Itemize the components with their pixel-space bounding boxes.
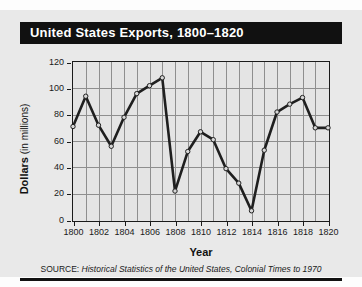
series-marker [109,144,113,148]
x-tick-mark [201,222,202,226]
series-marker [224,166,228,170]
series-marker [313,126,317,130]
series-marker [71,124,75,128]
source-prefix: SOURCE: [40,264,79,274]
series-marker [275,110,279,114]
x-tick-mark [125,222,126,226]
series-marker [262,148,266,152]
series-marker [160,76,164,80]
y-tick-label: 80 [34,109,64,119]
y-tick-mark [67,221,71,222]
y-tick-label: 40 [34,162,64,172]
y-axis-title-bold: Dollars [18,157,30,194]
title-banner: United States Exports, 1800–1820 [20,22,342,44]
y-tick-label: 60 [34,136,64,146]
y-tick-mark [67,89,71,90]
exports-line-series [73,62,328,220]
x-axis-title: Year [72,246,330,258]
series-marker [326,126,330,130]
x-tick-mark [176,222,177,226]
x-tick-mark [99,222,100,226]
x-tick-mark [252,222,253,226]
chart-title: United States Exports, 1800–1820 [30,25,244,40]
series-marker [122,115,126,119]
x-tick-mark [329,222,330,226]
series-marker [237,181,241,185]
y-axis-title: Dollars (in millions) [16,96,32,206]
x-tick-mark [74,222,75,226]
y-tick-mark [67,63,71,64]
y-tick-mark [67,194,71,195]
bottom-rule [20,278,342,281]
y-tick-label: 100 [34,83,64,93]
series-marker [211,137,215,141]
series-marker [186,149,190,153]
series-marker [173,189,177,193]
y-tick-label: 0 [34,215,64,225]
x-tick-label: 1820 [312,227,346,237]
y-axis-title-rest: (in millions) [19,104,30,157]
plot-area [72,61,330,222]
series-marker [147,84,151,88]
y-tick-label: 20 [34,188,64,198]
source-note: SOURCE: Historical Statistics of the Uni… [20,264,342,274]
series-marker [300,95,304,99]
y-tick-mark [67,115,71,116]
series-marker [198,130,202,134]
page-top-margin [0,0,362,10]
x-tick-mark [227,222,228,226]
series-marker [249,209,253,213]
y-tick-mark [67,142,71,143]
source-text: Historical Statistics of the United Stat… [79,264,321,274]
series-marker [96,123,100,127]
figure-container: United States Exports, 1800–1820 Dollars… [0,0,362,287]
chart-panel: United States Exports, 1800–1820 Dollars… [8,10,354,275]
series-marker [288,102,292,106]
x-tick-mark [303,222,304,226]
series-marker [84,94,88,98]
y-tick-mark [67,168,71,169]
x-tick-mark [278,222,279,226]
series-marker [135,91,139,95]
y-tick-label: 120 [34,57,64,67]
x-tick-mark [150,222,151,226]
